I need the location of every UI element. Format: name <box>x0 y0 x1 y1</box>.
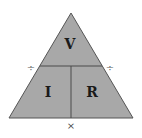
bottom-multiply-operator: × <box>67 120 75 131</box>
ohms-law-triangle-diagram: V I R ÷ ÷ × <box>0 0 142 138</box>
current-label: I <box>45 84 52 100</box>
left-divide-operator: ÷ <box>27 62 35 73</box>
right-divide-operator: ÷ <box>106 62 114 73</box>
resistance-label: R <box>86 84 98 100</box>
voltage-label: V <box>64 36 77 52</box>
